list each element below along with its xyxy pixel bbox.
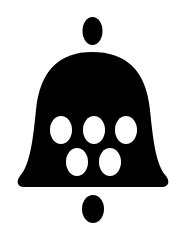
- bell-hole: [83, 116, 105, 144]
- bell-hole: [99, 148, 121, 176]
- bell-hole: [115, 116, 137, 144]
- bell-hole: [66, 148, 88, 176]
- bell-icon: [0, 0, 180, 238]
- bell-top-knob: [83, 17, 103, 45]
- bell-clapper: [82, 195, 104, 223]
- bell-hole: [50, 116, 72, 144]
